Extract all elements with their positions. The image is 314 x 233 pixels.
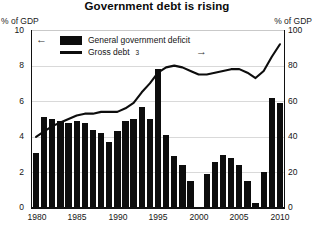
plot-area	[32, 30, 284, 208]
x-tick-1995: 1995	[141, 212, 175, 222]
right-tick-60: 60	[288, 96, 312, 106]
left-tick-2: 2	[2, 167, 24, 177]
chart-title: Government debt is rising	[0, 0, 314, 12]
right-tick-80: 80	[288, 60, 312, 70]
x-tick-1990: 1990	[101, 212, 135, 222]
x-tick-2005: 2005	[222, 212, 256, 222]
x-tick-2000: 2000	[182, 212, 216, 222]
left-tick-0: 0	[2, 202, 24, 212]
x-tick-1980: 1980	[20, 212, 54, 222]
x-tick-2010: 2010	[263, 212, 297, 222]
x-tick-1985: 1985	[60, 212, 94, 222]
left-tick-8: 8	[2, 60, 24, 70]
left-tick-4: 4	[2, 131, 24, 141]
plot-top-border	[32, 30, 284, 31]
gross-debt-line-series	[32, 30, 284, 208]
left-tick-6: 6	[2, 96, 24, 106]
right-tick-0: 0	[288, 202, 312, 212]
right-tick-40: 40	[288, 131, 312, 141]
y-axis-left-line	[31, 30, 32, 209]
x-axis-line	[32, 207, 284, 209]
left-tick-10: 10	[2, 25, 24, 35]
chart-root: Government debt is rising % of GDP % of …	[0, 0, 314, 233]
right-tick-20: 20	[288, 167, 312, 177]
right-tick-100: 100	[288, 25, 312, 35]
y-axis-right-line	[284, 30, 285, 209]
